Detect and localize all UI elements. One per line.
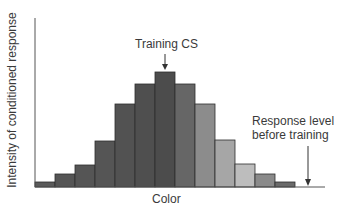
before-training-label-line1: Response level (252, 114, 334, 128)
y-axis-label: Intensity of conditioned response (5, 12, 19, 187)
bar-10 (215, 140, 235, 187)
training-cs-label: Training CS (135, 37, 198, 51)
bar-7 (155, 72, 175, 187)
baseline-arrow-icon (305, 146, 311, 186)
bar-11 (235, 164, 255, 187)
bar-4 (95, 141, 115, 187)
generalization-chart (0, 0, 341, 217)
bar-13 (275, 182, 295, 187)
bar-1 (35, 182, 55, 187)
bar-12 (255, 174, 275, 187)
training-cs-arrow-icon (162, 54, 168, 70)
bar-2 (55, 174, 75, 187)
bar-3 (75, 165, 95, 187)
bar-5 (115, 104, 135, 187)
x-axis-label: Color (152, 192, 181, 206)
bar-6 (135, 84, 155, 187)
bar-8 (175, 84, 195, 187)
bar-9 (195, 104, 215, 187)
before-training-label-line2: before training (252, 128, 329, 142)
